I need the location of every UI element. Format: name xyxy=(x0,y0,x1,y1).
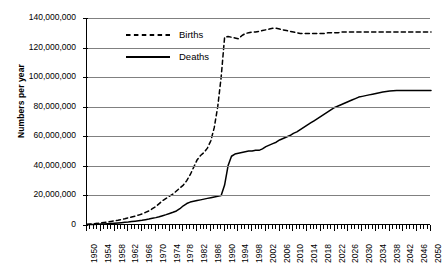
x-tick-mark xyxy=(206,225,207,229)
x-tick-label: 2002 xyxy=(269,244,278,263)
y-tick-mark xyxy=(83,77,88,78)
x-tick-mark xyxy=(258,225,259,229)
x-tick-mark xyxy=(179,225,180,229)
x-tick-mark xyxy=(89,225,90,229)
gridline xyxy=(87,18,430,19)
x-tick-mark xyxy=(93,225,94,229)
x-tick-mark xyxy=(268,225,269,229)
x-tick-mark xyxy=(396,225,397,229)
x-tick-mark xyxy=(193,225,194,229)
x-tick-mark xyxy=(337,225,338,229)
x-tick-mark xyxy=(148,225,149,229)
x-tick-label: 1986 xyxy=(214,244,223,263)
x-tick-mark xyxy=(172,225,173,229)
x-tick-mark xyxy=(200,225,201,229)
x-tick-mark xyxy=(162,225,163,229)
x-tick-mark xyxy=(354,225,355,229)
x-tick-mark xyxy=(313,225,314,229)
x-tick-label: 1978 xyxy=(186,244,195,263)
x-tick-mark xyxy=(406,225,407,229)
x-tick-mark xyxy=(241,225,242,229)
y-axis-tick-labels: 020,000,00040,000,00060,000,00080,000,00… xyxy=(0,0,82,271)
x-tick-mark xyxy=(430,225,431,231)
y-tick-label: 80,000,000 xyxy=(0,102,82,111)
x-tick-mark xyxy=(275,225,276,229)
x-tick-label: 2030 xyxy=(365,244,374,263)
x-tick-label: 1950 xyxy=(90,244,99,263)
x-tick-mark xyxy=(144,225,145,229)
x-tick-mark xyxy=(344,225,345,229)
gridline xyxy=(87,195,430,196)
x-tick-label: 2038 xyxy=(393,244,402,263)
x-tick-mark xyxy=(234,225,235,229)
legend-item-deaths: Deaths xyxy=(125,48,209,65)
y-tick-label: 0 xyxy=(0,220,82,229)
x-tick-mark xyxy=(378,225,379,229)
x-tick-label: 2034 xyxy=(379,244,388,263)
x-tick-mark xyxy=(385,225,386,229)
x-tick-mark xyxy=(134,225,135,229)
x-tick-mark xyxy=(316,225,317,229)
gridline xyxy=(87,166,430,167)
x-tick-mark xyxy=(427,225,428,229)
x-tick-label: 1954 xyxy=(104,244,113,263)
y-tick-mark xyxy=(83,166,88,167)
x-tick-label: 1962 xyxy=(131,244,140,263)
x-tick-mark xyxy=(165,225,166,229)
gridline xyxy=(87,77,430,78)
x-tick-mark xyxy=(117,225,118,229)
chart-legend: Births Deaths xyxy=(125,26,209,70)
x-tick-label: 1970 xyxy=(159,244,168,263)
x-tick-label: 2026 xyxy=(351,244,360,263)
x-tick-mark xyxy=(310,225,311,229)
x-tick-mark xyxy=(409,225,410,229)
x-tick-mark xyxy=(255,225,256,229)
x-axis-tick-labels: 1950195419581962196619701974197819821986… xyxy=(86,231,430,271)
x-tick-mark xyxy=(296,225,297,229)
x-tick-mark xyxy=(399,225,400,229)
x-tick-mark xyxy=(382,225,383,229)
x-tick-label: 2050 xyxy=(434,244,443,263)
x-tick-mark xyxy=(272,225,273,229)
gridline xyxy=(87,107,430,108)
y-tick-label: 100,000,000 xyxy=(0,72,82,81)
legend-swatch-solid xyxy=(125,52,171,62)
x-tick-mark xyxy=(286,225,287,229)
x-tick-mark xyxy=(213,225,214,229)
gridline xyxy=(87,136,430,137)
x-tick-mark xyxy=(120,225,121,229)
x-tick-mark xyxy=(365,225,366,229)
y-tick-mark xyxy=(83,136,88,137)
x-tick-label: 1958 xyxy=(118,244,127,263)
legend-item-births: Births xyxy=(125,26,209,43)
x-tick-label: 1994 xyxy=(241,244,250,263)
x-tick-mark xyxy=(220,225,221,229)
x-tick-mark xyxy=(138,225,139,229)
x-tick-mark xyxy=(341,225,342,229)
x-tick-mark xyxy=(103,225,104,229)
x-tick-label: 1982 xyxy=(200,244,209,263)
x-tick-mark xyxy=(158,225,159,229)
x-tick-mark xyxy=(303,225,304,229)
x-tick-label: 2042 xyxy=(406,244,415,263)
x-tick-mark xyxy=(96,225,97,229)
x-tick-mark xyxy=(244,225,245,229)
x-tick-label: 1974 xyxy=(173,244,182,263)
x-tick-mark xyxy=(203,225,204,229)
x-tick-mark xyxy=(330,225,331,229)
y-tick-label: 40,000,000 xyxy=(0,161,82,170)
y-tick-label: 140,000,000 xyxy=(0,13,82,22)
x-tick-mark xyxy=(413,225,414,229)
x-tick-mark xyxy=(327,225,328,229)
x-tick-label: 1990 xyxy=(228,244,237,263)
x-tick-mark xyxy=(351,225,352,229)
x-tick-label: 2006 xyxy=(283,244,292,263)
x-tick-mark xyxy=(392,225,393,229)
x-tick-label: 1966 xyxy=(145,244,154,263)
x-tick-mark xyxy=(299,225,300,229)
line-deaths xyxy=(87,90,431,224)
x-tick-mark xyxy=(124,225,125,229)
x-tick-mark xyxy=(189,225,190,229)
x-tick-mark xyxy=(420,225,421,229)
